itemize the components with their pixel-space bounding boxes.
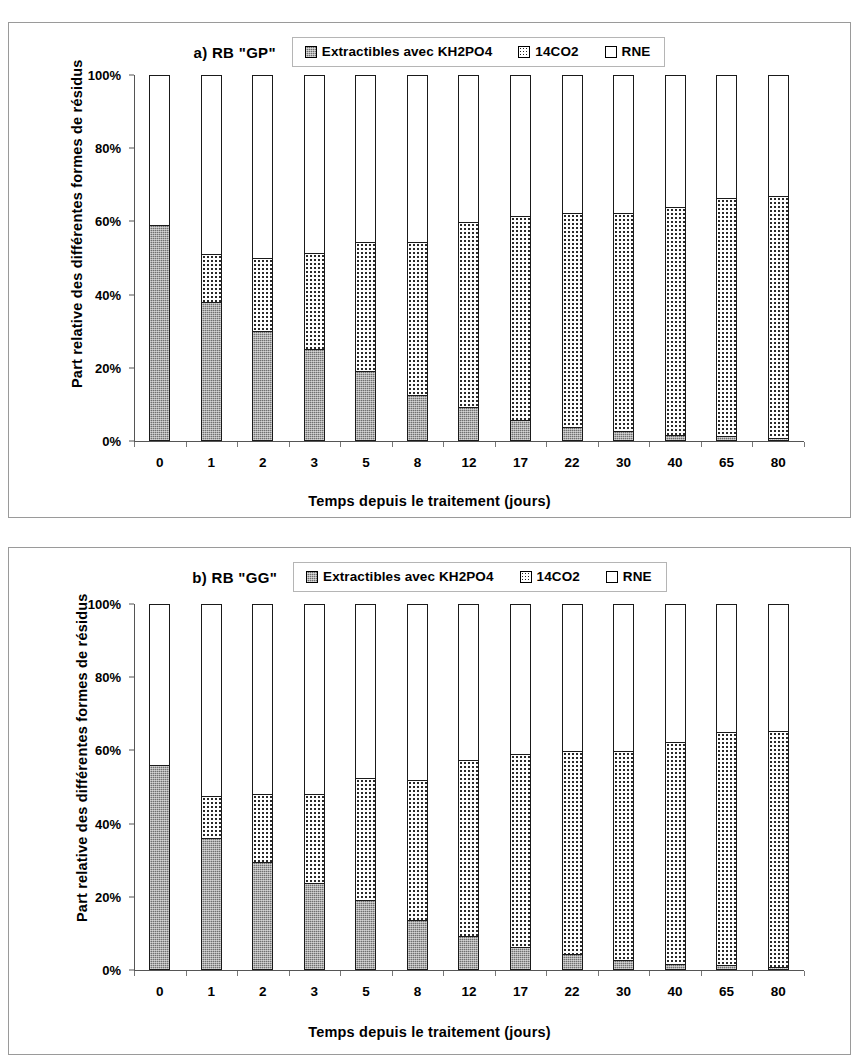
segment-rne: [459, 76, 478, 222]
stacked-bar[interactable]: [149, 604, 170, 970]
stacked-bar[interactable]: [562, 604, 583, 970]
x-tick-mark: [289, 442, 290, 447]
stacked-bar[interactable]: [510, 604, 531, 970]
bar-slot: [701, 75, 753, 441]
x-tick-mark: [289, 971, 290, 976]
x-tick-label: 5: [340, 984, 392, 999]
segment-extractibles: [614, 431, 633, 440]
x-tick-label: 2: [237, 984, 289, 999]
stacked-bar[interactable]: [458, 75, 479, 441]
panel-a-x-axis-line: [134, 441, 804, 442]
stacked-bar[interactable]: [665, 75, 686, 441]
segment-extractibles: [150, 225, 169, 440]
stacked-bar[interactable]: [613, 75, 634, 441]
segment-rne: [150, 76, 169, 225]
stacked-bar[interactable]: [613, 604, 634, 970]
segment-rne: [614, 76, 633, 213]
panel-a-bars: [134, 75, 804, 441]
segment-rne: [769, 76, 788, 196]
stacked-bar[interactable]: [304, 75, 325, 441]
stacked-bar[interactable]: [407, 75, 428, 441]
segment-14co2: [305, 253, 324, 349]
segment-rne: [614, 605, 633, 751]
stacked-bar[interactable]: [665, 604, 686, 970]
bar-slot: [186, 604, 238, 970]
segment-rne: [511, 76, 530, 216]
bar-slot: [598, 604, 650, 970]
panel-b-x-axis-title: Temps depuis le traitement (jours): [9, 1024, 850, 1040]
segment-rne: [356, 76, 375, 242]
bar-slot: [392, 75, 444, 441]
segment-rne: [253, 605, 272, 794]
x-tick-label: 30: [598, 984, 650, 999]
stacked-bar[interactable]: [252, 75, 273, 441]
x-tick-mark: [237, 442, 238, 447]
segment-extractibles: [408, 395, 427, 441]
segment-extractibles: [717, 965, 736, 969]
segment-14co2: [202, 796, 221, 838]
stacked-bar[interactable]: [458, 604, 479, 970]
stacked-bar[interactable]: [407, 604, 428, 970]
x-tick-mark: [340, 442, 341, 447]
bar-slot: [340, 75, 392, 441]
stacked-bar[interactable]: [304, 604, 325, 970]
y-tick-label: 80%: [59, 141, 121, 156]
stacked-bar[interactable]: [510, 75, 531, 441]
segment-extractibles: [769, 967, 788, 969]
segment-extractibles: [717, 436, 736, 440]
x-tick-mark: [443, 971, 444, 976]
chart-panel-a: a) RB "GP" Extractibles avec KH2PO4 14CO…: [8, 22, 851, 518]
bar-slot: [546, 75, 598, 441]
x-tick-label: 1: [186, 984, 238, 999]
segment-rne: [769, 605, 788, 731]
stacked-bar[interactable]: [562, 75, 583, 441]
x-tick-mark: [649, 442, 650, 447]
bar-slot: [443, 75, 495, 441]
segment-14co2: [717, 732, 736, 965]
segment-extractibles: [356, 371, 375, 440]
stacked-bar[interactable]: [201, 604, 222, 970]
stacked-bar[interactable]: [716, 75, 737, 441]
bar-slot: [392, 604, 444, 970]
stacked-bar[interactable]: [252, 604, 273, 970]
y-tick-label: 0%: [59, 434, 121, 449]
x-tick-label: 80: [752, 984, 804, 999]
x-tick-mark: [649, 971, 650, 976]
stacked-bar[interactable]: [768, 75, 789, 441]
bar-slot: [134, 75, 186, 441]
segment-14co2: [614, 751, 633, 960]
bar-slot: [495, 75, 547, 441]
bar-slot: [649, 604, 701, 970]
segment-14co2: [356, 242, 375, 371]
stacked-bar[interactable]: [716, 604, 737, 970]
stacked-bar[interactable]: [768, 604, 789, 970]
segment-extractibles: [459, 407, 478, 440]
bar-slot: [701, 604, 753, 970]
x-tick-mark: [443, 442, 444, 447]
segment-extractibles: [150, 765, 169, 969]
bar-slot: [649, 75, 701, 441]
panel-b-plot: Part relative des différentes formes de …: [9, 548, 850, 1054]
stacked-bar[interactable]: [201, 75, 222, 441]
stacked-bar[interactable]: [355, 75, 376, 441]
x-tick-label: 40: [649, 984, 701, 999]
segment-14co2: [666, 207, 685, 435]
segment-14co2: [563, 213, 582, 428]
x-tick-label: 65: [701, 455, 753, 470]
panel-a-plot: Part relative des différentes formes de …: [9, 23, 850, 517]
bar-slot: [340, 604, 392, 970]
x-tick-label: 8: [392, 455, 444, 470]
segment-14co2: [717, 198, 736, 436]
bar-slot: [752, 75, 804, 441]
segment-rne: [356, 605, 375, 778]
segment-14co2: [305, 794, 324, 883]
stacked-bar[interactable]: [355, 604, 376, 970]
bar-slot: [134, 604, 186, 970]
y-tick-label: 100%: [59, 68, 121, 83]
stacked-bar[interactable]: [149, 75, 170, 441]
segment-rne: [305, 605, 324, 794]
segment-extractibles: [666, 435, 685, 440]
y-tick-label: 80%: [59, 670, 121, 685]
x-tick-mark: [598, 971, 599, 976]
segment-extractibles: [511, 420, 530, 440]
